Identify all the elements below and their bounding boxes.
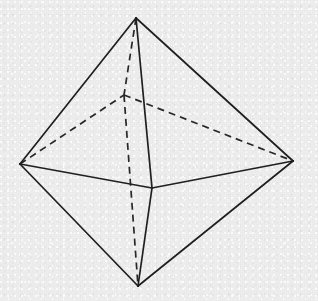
vertex-marker-vertex-front [151, 187, 153, 189]
octahedron-diagram [0, 0, 318, 301]
hidden-edges-group [20, 18, 293, 286]
visible-edges-group [20, 18, 293, 286]
edge-apex-to-front [136, 18, 152, 188]
figure-canvas [0, 0, 318, 301]
vertex-marker-vertex-left [19, 163, 21, 165]
edge-apex-to-right [136, 18, 293, 161]
edge-front-to-bottom [138, 188, 152, 286]
edge-right-to-bottom [138, 161, 293, 286]
edge-back-vertex-to-bottom [124, 95, 138, 286]
vertices-group [19, 17, 294, 287]
edge-apex-to-left [20, 18, 136, 164]
edge-left-to-back-vertex [20, 95, 124, 164]
vertex-marker-apex-top [135, 17, 137, 19]
vertex-marker-apex-bottom [137, 285, 139, 287]
vertex-marker-vertex-right [292, 160, 294, 162]
edge-front-to-right [152, 161, 293, 188]
